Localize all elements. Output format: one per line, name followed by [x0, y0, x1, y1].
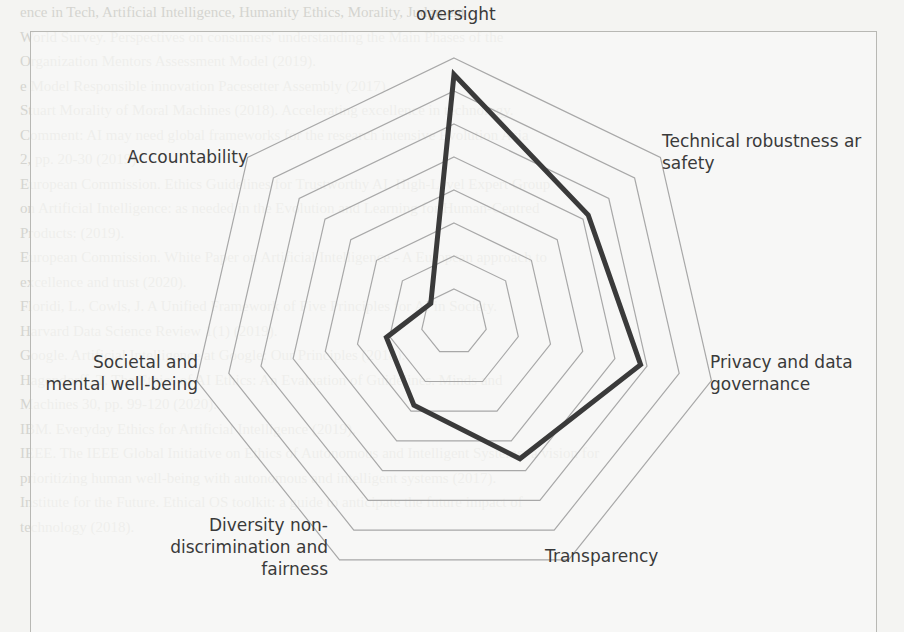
data-series-polygon	[386, 75, 640, 459]
axis-label-societal: Societal and mental well-being	[18, 351, 198, 395]
grid-ring	[261, 124, 647, 500]
axis-label-text: discrimination and	[168, 536, 328, 558]
axis-label-text: Accountability	[127, 147, 248, 167]
axis-label-privacy: Privacy and data governance	[710, 351, 853, 395]
axis-label-diversity: Diversity non- discrimination and fairne…	[168, 514, 328, 580]
axis-label-text: Societal and	[18, 351, 198, 373]
axis-label-oversight: oversight	[416, 3, 496, 25]
axis-label-text: fairness	[168, 558, 328, 580]
axis-label-text: governance	[710, 373, 853, 395]
axis-label-technical-robustness: Technical robustness ar safety	[662, 130, 861, 174]
axis-label-text: Diversity non-	[168, 514, 328, 536]
axis-label-transparency: Transparency	[545, 545, 658, 567]
axis-label-text: safety	[662, 152, 861, 174]
axis-label-text: Privacy and data	[710, 351, 853, 373]
axis-label-text: mental well-being	[18, 373, 198, 395]
axis-label-text: Technical robustness ar	[662, 130, 861, 152]
axis-label-text: Transparency	[545, 546, 658, 566]
axis-label-accountability: Accountability	[90, 146, 248, 168]
radar-grid	[197, 58, 712, 560]
grid-ring	[358, 223, 551, 411]
axis-label-text: oversight	[416, 4, 496, 24]
